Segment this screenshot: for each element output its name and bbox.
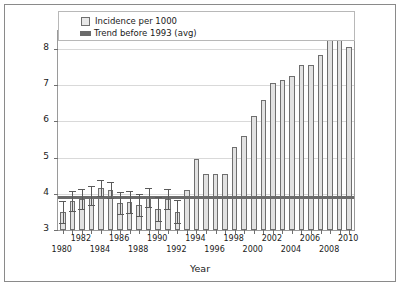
bar [337, 35, 343, 230]
bar [308, 65, 314, 230]
error-bar [72, 191, 73, 211]
legend-label-incidence: Incidence per 1000 [95, 16, 177, 26]
x-tick-label: 1990 [142, 234, 172, 243]
bar [232, 147, 238, 230]
error-bar [91, 186, 92, 206]
error-bar-cap [97, 180, 104, 181]
legend-bar-swatch-icon [81, 17, 90, 26]
error-bar-cap [126, 213, 133, 214]
bar [327, 38, 333, 230]
error-bar-cap [78, 189, 85, 190]
legend-line-swatch-icon [80, 31, 91, 36]
y-tick-mark [54, 194, 58, 195]
bar [318, 55, 324, 230]
x-tick-label: 2004 [276, 245, 306, 254]
bar [270, 83, 276, 230]
error-bar [130, 191, 131, 213]
x-tick-mark [330, 230, 331, 234]
x-tick-mark [101, 230, 102, 234]
error-bar-cap [59, 201, 66, 202]
bar [251, 116, 257, 230]
bar [241, 136, 247, 230]
x-tick-label: 1994 [180, 234, 210, 243]
x-tick-label: 2008 [314, 245, 344, 254]
error-bar-cap [97, 196, 104, 197]
y-tick-mark [54, 49, 58, 50]
error-bar-cap [69, 191, 76, 192]
legend-label-trend: Trend before 1993 (avg) [94, 28, 197, 38]
x-tick-label: 1992 [161, 245, 191, 254]
error-bar-cap [107, 182, 114, 183]
y-tick-label: 4 [23, 187, 49, 197]
error-bar-cap [145, 207, 152, 208]
error-bar-cap [164, 209, 171, 210]
bar [299, 65, 305, 230]
y-tick-label: 7 [23, 78, 49, 88]
error-bar-cap [59, 223, 66, 224]
error-bar-cap [88, 205, 95, 206]
y-tick-label: 8 [23, 42, 49, 52]
x-axis-title: Year [0, 263, 400, 274]
legend-item-incidence: Incidence per 1000 [81, 15, 354, 27]
error-bar [177, 200, 178, 223]
grid-line [58, 49, 354, 50]
error-bar-cap [69, 211, 76, 212]
x-tick-label: 1982 [66, 234, 96, 243]
x-tick-label: 2010 [333, 234, 363, 243]
error-bar [168, 189, 169, 209]
chart-legend: Incidence per 1000 Trend before 1993 (av… [58, 11, 355, 41]
bar [222, 174, 228, 230]
error-bar [139, 194, 140, 216]
x-tick-mark [139, 230, 140, 234]
bar [203, 174, 209, 230]
error-bar-cap [174, 200, 181, 201]
error-bar [149, 188, 150, 208]
y-tick-label: 5 [23, 151, 49, 161]
error-bar-cap [155, 197, 162, 198]
bar [194, 159, 200, 230]
y-tick-label: 6 [23, 114, 49, 124]
bar [280, 80, 286, 230]
error-bar-cap [78, 209, 85, 210]
x-tick-label: 1996 [200, 245, 230, 254]
y-tick-mark [54, 230, 58, 231]
plot-inner [58, 31, 354, 230]
x-tick-mark [292, 230, 293, 234]
error-bar-cap [174, 223, 181, 224]
error-bar-cap [126, 191, 133, 192]
error-bar [82, 189, 83, 209]
error-bar-cap [136, 194, 143, 195]
error-bar-cap [107, 198, 114, 199]
x-tick-mark [177, 230, 178, 234]
bar [289, 76, 295, 230]
error-bar [101, 180, 102, 196]
y-tick-mark [54, 121, 58, 122]
x-tick-label: 2006 [295, 234, 325, 243]
error-bar-cap [155, 221, 162, 222]
error-bar-cap [88, 186, 95, 187]
error-bar-cap [117, 214, 124, 215]
error-bar [120, 192, 121, 214]
y-tick-mark [54, 158, 58, 159]
x-tick-mark [254, 230, 255, 234]
error-bar-cap [117, 192, 124, 193]
x-tick-mark [63, 230, 64, 234]
x-tick-label: 1998 [219, 234, 249, 243]
bar [213, 174, 219, 230]
plot-area [57, 30, 355, 231]
error-bar [111, 182, 112, 198]
x-tick-label: 1988 [123, 245, 153, 254]
error-bar-cap [145, 188, 152, 189]
bar [261, 100, 267, 230]
y-tick-mark [54, 85, 58, 86]
x-tick-label: 2000 [238, 245, 268, 254]
error-bar-cap [136, 216, 143, 217]
error-bar [158, 197, 159, 220]
x-tick-mark [216, 230, 217, 234]
error-bar [63, 201, 64, 223]
x-tick-label: 2002 [257, 234, 287, 243]
y-tick-label: 3 [23, 223, 49, 233]
bar [346, 47, 352, 230]
x-tick-label: 1986 [104, 234, 134, 243]
error-bar-cap [164, 189, 171, 190]
